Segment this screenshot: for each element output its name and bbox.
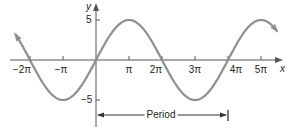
x-tick-label-4pi: 4π bbox=[230, 65, 242, 75]
y-axis-arrow-icon bbox=[93, 3, 99, 11]
x-tick-label-pi: π bbox=[126, 65, 133, 75]
x-tick-label-3pi: 3π bbox=[189, 65, 201, 75]
x-axis-label: x bbox=[280, 64, 285, 74]
y-axis-label: y bbox=[86, 2, 91, 12]
x-tick-label-neg-2pi: −2π bbox=[13, 65, 31, 75]
x-tick-label-2pi: 2π bbox=[150, 65, 162, 75]
y-tick-label-neg-5: −5 bbox=[81, 95, 92, 105]
period-right-arrow-icon bbox=[220, 113, 227, 118]
x-tick-label-neg-pi: −π bbox=[55, 65, 68, 75]
period-left-arrow-icon bbox=[97, 113, 104, 118]
curve-start-arrow-icon bbox=[14, 32, 21, 41]
x-tick-label-5pi: 5π bbox=[255, 65, 267, 75]
period-label: Period bbox=[145, 110, 178, 120]
y-tick-label-5: 5 bbox=[86, 15, 92, 25]
x-ticks bbox=[30, 56, 261, 60]
